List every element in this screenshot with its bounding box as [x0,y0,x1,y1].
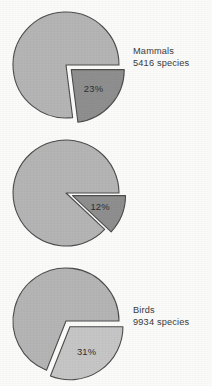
pie-percent-label-amphibians: 31% [77,346,96,357]
pie-exploded-slice-mammals [71,70,124,123]
pie-main-slice-group-birds [13,140,119,246]
pie-chart-figure: 23% Mammals 5416 species 12% Birds 9934 … [0,0,212,386]
pie-exploded-slice-group-mammals [71,70,124,123]
pie-chart-amphibians: 31% Amphibians 5918 species [0,256,212,384]
pie-svg-birds: 12% [0,128,140,256]
pie-main-slice-birds [13,140,119,246]
pie-svg-amphibians: 31% [0,256,140,384]
pie-svg-mammals: 23% [0,0,140,128]
pie-legend-mammals: Mammals 5416 species [133,45,212,69]
pie-chart-mammals: 23% Mammals 5416 species [0,0,212,128]
pie-legend-species-mammals: 5416 species [133,57,212,69]
pie-chart-birds: 12% Birds 9934 species [0,128,212,256]
pie-legend-title-mammals: Mammals [133,45,212,57]
pie-percent-label-birds: 12% [90,201,109,212]
pie-percent-label-mammals: 23% [84,83,103,94]
